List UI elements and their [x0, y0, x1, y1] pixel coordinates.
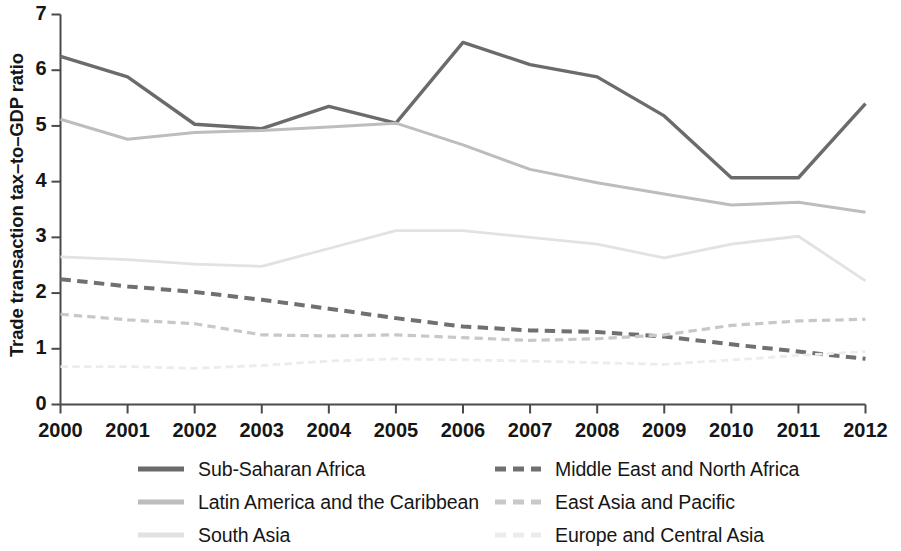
y-tick-label: 0: [21, 392, 47, 415]
plot-area: [0, 0, 901, 420]
y-tick-label: 7: [21, 2, 47, 25]
x-tick-label: 2001: [93, 419, 163, 442]
legend-item-label: Europe and Central Asia: [555, 524, 764, 547]
legend-item-label: Middle East and North Africa: [555, 458, 799, 481]
x-tick-label: 2000: [26, 419, 96, 442]
y-tick-label: 6: [21, 57, 47, 80]
legend-item-label: South Asia: [198, 524, 290, 547]
axes-layer: [52, 15, 866, 414]
y-tick-label: 1: [21, 336, 47, 359]
legend-line-swatch-icon: [138, 462, 184, 476]
x-tick-label: 2007: [495, 419, 565, 442]
legend-line-swatch-icon: [495, 462, 541, 476]
y-tick-label: 5: [21, 113, 47, 136]
legend-item-label: East Asia and Pacific: [555, 491, 735, 514]
plot-svg: [0, 0, 901, 420]
series-line-0: [61, 42, 866, 177]
legend-line-swatch-icon: [495, 495, 541, 509]
series-line-1: [61, 119, 866, 212]
legend-line-swatch-icon: [138, 528, 184, 542]
legend-item-label: Sub-Saharan Africa: [198, 458, 365, 481]
legend-line-swatch-icon: [138, 495, 184, 509]
y-tick-label: 3: [21, 224, 47, 247]
legend-item[interactable]: South Asia: [138, 521, 290, 549]
x-tick-label: 2006: [428, 419, 498, 442]
legend-item[interactable]: Sub-Saharan Africa: [138, 455, 365, 483]
x-tick-label: 2002: [160, 419, 230, 442]
x-tick-label: 2004: [294, 419, 364, 442]
x-tick-label: 2008: [562, 419, 632, 442]
y-tick-label: 2: [21, 280, 47, 303]
y-tick-label: 4: [21, 169, 47, 192]
legend-item[interactable]: Europe and Central Asia: [495, 521, 764, 549]
legend-item[interactable]: Latin America and the Caribbean: [138, 488, 479, 516]
legend-item-label: Latin America and the Caribbean: [198, 491, 479, 514]
legend-item[interactable]: Middle East and North Africa: [495, 455, 799, 483]
series-line-5: [61, 352, 866, 369]
chart-figure: Trade transaction tax–to–GDP ratio 01234…: [0, 0, 901, 551]
series-layer: [61, 42, 866, 368]
series-line-3: [61, 279, 866, 359]
chart-legend: Sub-Saharan AfricaMiddle East and North …: [0, 455, 901, 551]
legend-line-swatch-icon: [495, 528, 541, 542]
x-tick-label: 2012: [831, 419, 901, 442]
series-line-2: [61, 231, 866, 281]
x-tick-label: 2005: [361, 419, 431, 442]
x-tick-label: 2003: [227, 419, 297, 442]
x-tick-label: 2011: [763, 419, 833, 442]
x-tick-label: 2009: [629, 419, 699, 442]
legend-item[interactable]: East Asia and Pacific: [495, 488, 735, 516]
x-tick-label: 2010: [696, 419, 766, 442]
